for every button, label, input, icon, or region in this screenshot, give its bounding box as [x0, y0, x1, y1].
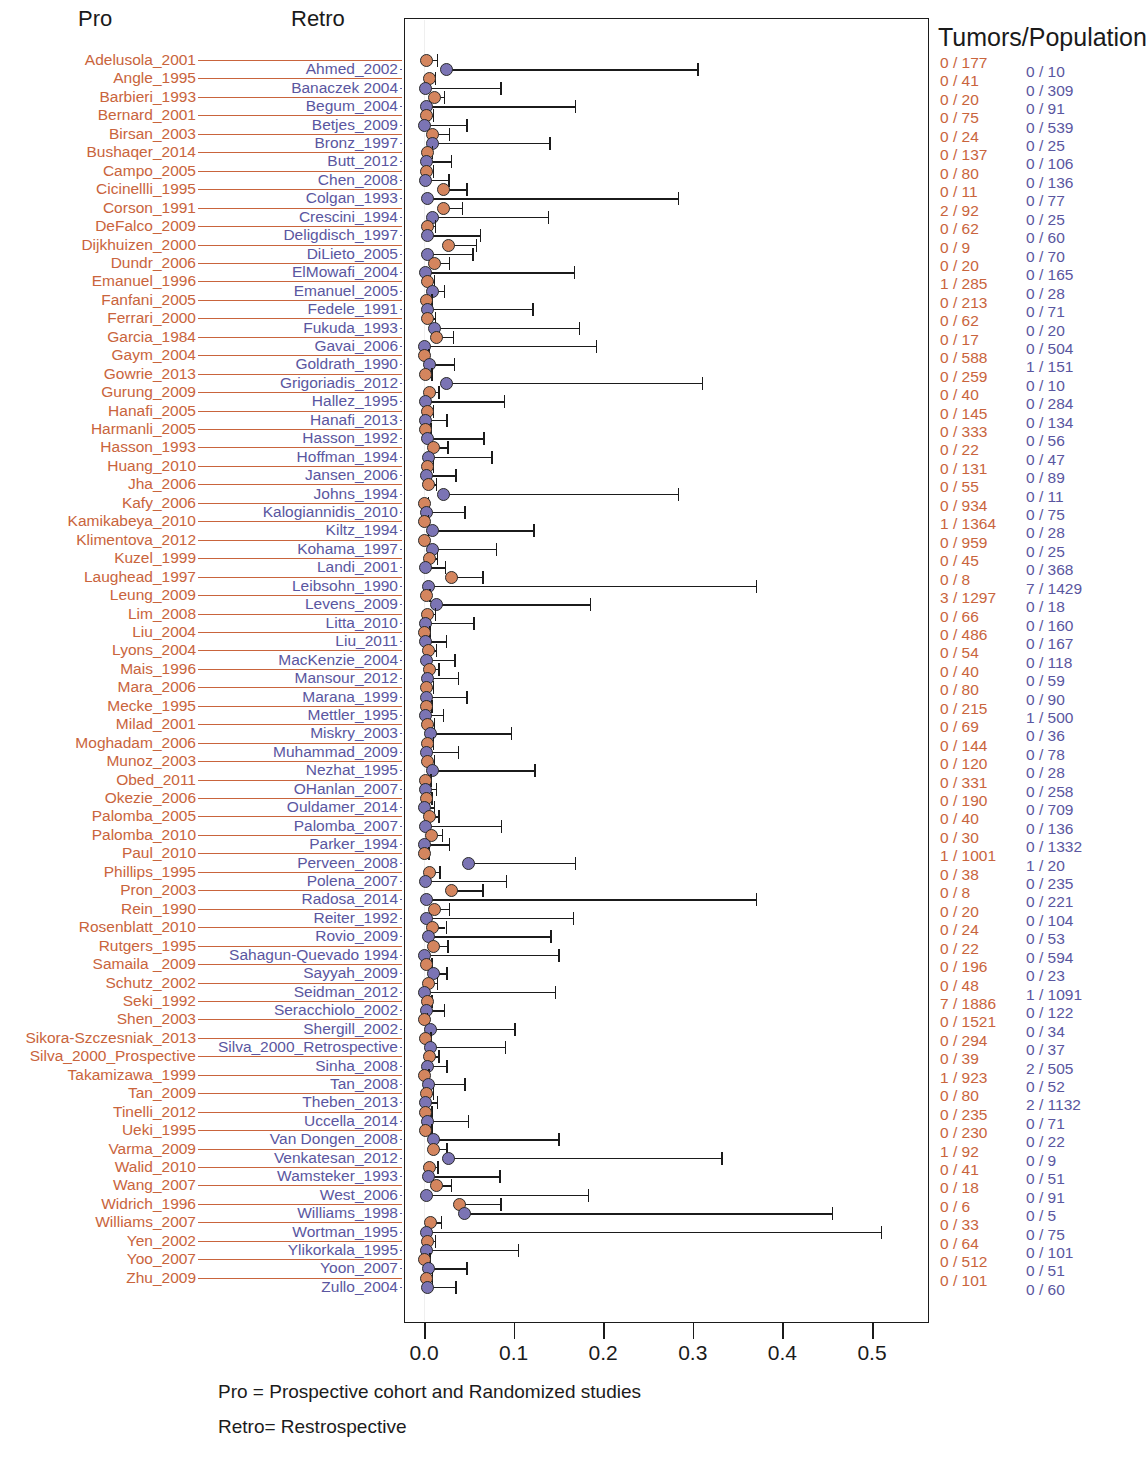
confidence-interval-bar	[435, 328, 579, 329]
confidence-interval-bar	[434, 1139, 559, 1140]
retro-study-label: Goldrath_1990	[295, 356, 398, 371]
tumors-population-value: 0 / 78	[1026, 747, 1065, 762]
retro-study-label: Grigoriadis_2012	[280, 375, 398, 390]
tumors-population-value: 0 / 504	[1026, 341, 1073, 356]
tumors-population-value: 0 / 40	[940, 387, 979, 402]
pro-study-label: Fanfani_2005	[101, 292, 196, 307]
confidence-interval-cap	[447, 940, 448, 953]
label-leader-rule	[400, 697, 402, 698]
tumors-population-value: 0 / 52	[1026, 1079, 1065, 1094]
confidence-interval-cap	[573, 912, 574, 925]
tumors-population-value: 0 / 213	[940, 295, 987, 310]
estimate-marker	[458, 1207, 471, 1220]
confidence-interval-bar	[464, 1213, 831, 1214]
pro-study-label: Barbieri_1993	[99, 89, 196, 104]
confidence-interval-cap	[832, 1207, 833, 1220]
tumors-population-value: 0 / 66	[940, 609, 979, 624]
pro-study-label: Laughead_1997	[84, 569, 196, 584]
label-leader-rule	[400, 604, 402, 605]
label-leader-rule	[400, 918, 402, 919]
tumors-population-value: 0 / 91	[1026, 1190, 1065, 1205]
confidence-interval-cap	[534, 764, 535, 777]
confidence-interval-bar	[430, 1047, 505, 1048]
label-leader-rule	[400, 420, 402, 421]
retro-study-label: Perveen_2008	[297, 855, 398, 870]
tumors-population-value: 0 / 118	[1026, 655, 1072, 670]
confidence-interval-cap	[444, 91, 445, 104]
estimate-marker	[427, 1143, 440, 1156]
confidence-interval-cap	[446, 967, 447, 980]
tumors-population-value: 0 / 38	[940, 867, 979, 882]
confidence-interval-cap	[447, 441, 448, 454]
tumors-population-value: 2 / 505	[1026, 1061, 1073, 1076]
label-leader-rule	[400, 346, 402, 347]
tumors-population-value: 0 / 512	[940, 1254, 987, 1269]
retro-study-label: Fedele_1991	[308, 301, 399, 316]
tumors-population-value: 3 / 1297	[940, 590, 996, 605]
retro-study-label: Radosa_2014	[301, 891, 398, 906]
tumors-population-value: 0 / 59	[1026, 673, 1065, 688]
retro-study-label: Sayyah_2009	[303, 965, 398, 980]
confidence-interval-cap	[436, 478, 437, 491]
confidence-interval-cap	[446, 635, 447, 648]
confidence-interval-cap	[574, 266, 575, 279]
label-leader-rule	[400, 161, 402, 162]
label-leader-rule	[400, 660, 402, 661]
tumors-population-value: 0 / 30	[940, 830, 979, 845]
pro-study-label: Mecke_1995	[107, 698, 196, 713]
pro-study-label: Rutgers_1995	[99, 938, 196, 953]
retro-study-label: Levens_2009	[305, 596, 398, 611]
pro-study-label: Lyons_2004	[112, 642, 196, 657]
pro-study-label: Obed_2011	[116, 772, 196, 787]
confidence-interval-cap	[482, 571, 483, 584]
label-leader-rule	[400, 733, 402, 734]
tumors-population-value: 0 / 11	[1026, 489, 1064, 504]
label-leader-rule	[400, 1139, 402, 1140]
confidence-interval-bar	[444, 494, 678, 495]
retro-study-label: Hallez_1995	[312, 393, 398, 408]
tumors-population-value: 0 / 20	[940, 904, 979, 919]
label-leader-rule	[400, 198, 402, 199]
confidence-interval-bar	[446, 69, 697, 70]
pro-study-label: Palomba_2010	[92, 827, 196, 842]
confidence-interval-cap	[575, 100, 576, 113]
tumors-population-value: 0 / 24	[940, 922, 979, 937]
retro-study-label: Seracchiolo_2002	[274, 1002, 398, 1017]
confidence-interval-cap	[558, 1133, 559, 1146]
retro-study-label: Liu_2011	[335, 633, 398, 648]
pro-study-label: Schutz_2002	[106, 975, 197, 990]
pro-study-label: Gaym_2004	[112, 347, 196, 362]
tumors-population-value: 0 / 10	[1026, 64, 1065, 79]
label-leader-rule	[400, 1121, 402, 1122]
tumors-population-value: 1 / 1364	[940, 516, 996, 531]
tumors-population-value: 1 / 1091	[1026, 987, 1082, 1002]
confidence-interval-cap	[881, 1226, 882, 1239]
pro-study-label: Dijkhuizen_2000	[81, 237, 196, 252]
tumors-population-value: 0 / 80	[940, 1088, 979, 1103]
confidence-interval-bar	[433, 143, 549, 144]
confidence-interval-cap	[446, 414, 447, 427]
confidence-interval-bar	[426, 918, 572, 919]
confidence-interval-cap	[438, 386, 439, 399]
confidence-interval-cap	[433, 109, 434, 122]
retro-study-label: Van Dongen_2008	[270, 1131, 398, 1146]
confidence-interval-cap	[678, 192, 679, 205]
label-leader-rule	[400, 1213, 402, 1214]
tumors-population-value: 1 / 285	[940, 276, 987, 291]
confidence-interval-bar	[427, 1232, 881, 1233]
confidence-interval-cap	[483, 432, 484, 445]
tumors-population-value: 0 / 55	[940, 479, 979, 494]
confidence-interval-cap	[449, 903, 450, 916]
tumors-population-value: 0 / 134	[1026, 415, 1073, 430]
retro-study-label: Silva_2000_Retrospective	[218, 1039, 398, 1054]
tumors-population-value: 0 / 6	[940, 1199, 970, 1214]
confidence-interval-cap	[756, 893, 757, 906]
tumors-population-value: 0 / 20	[940, 258, 979, 273]
retro-study-label: Banaczek 2004	[291, 80, 398, 95]
tumors-population-value: 0 / 8	[940, 885, 970, 900]
tumors-population-value: 0 / 90	[1026, 692, 1065, 707]
label-leader-rule	[400, 254, 402, 255]
pro-study-label: Widrich_1996	[101, 1196, 196, 1211]
label-leader-rule	[400, 623, 402, 624]
pro-study-label: Walid_2010	[115, 1159, 196, 1174]
